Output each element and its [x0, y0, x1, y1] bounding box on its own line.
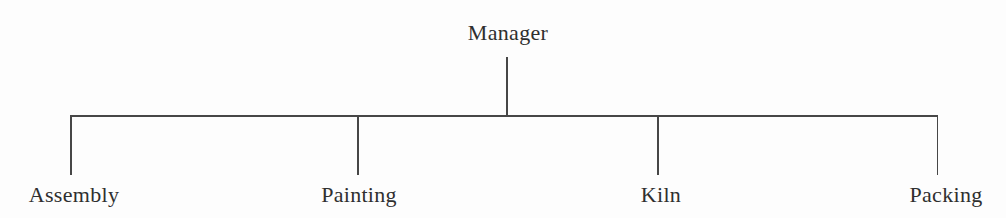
connector-drop-packing: [937, 115, 939, 175]
connector-drop-kiln: [657, 115, 659, 175]
node-packing: Packing: [910, 183, 983, 207]
node-manager: Manager: [468, 21, 548, 45]
node-painting: Painting: [321, 183, 397, 207]
node-kiln: Kiln: [641, 183, 681, 207]
connector-root-stem: [506, 57, 508, 116]
node-assembly: Assembly: [29, 183, 119, 207]
connector-drop-assembly: [70, 115, 72, 175]
connector-drop-painting: [357, 115, 359, 175]
connector-crossbar: [70, 115, 938, 117]
org-chart: Manager Assembly Painting Kiln Packing: [0, 0, 1006, 218]
